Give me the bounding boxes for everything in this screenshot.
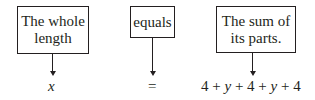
arrow-down-icon bbox=[252, 53, 253, 72]
box-sum-of-parts-line1: The sum of bbox=[222, 13, 290, 30]
arrow-down-icon bbox=[52, 54, 53, 72]
box-sum-of-parts: The sum of its parts. bbox=[216, 6, 296, 53]
box-whole-length-line1: The whole bbox=[21, 13, 85, 30]
expression-right-text: 4 + y + 4 + y + 4 bbox=[201, 78, 301, 94]
expression-middle: = bbox=[148, 78, 156, 94]
box-whole-length-line2: length bbox=[21, 30, 85, 47]
box-whole-length: The whole length bbox=[17, 6, 89, 54]
expression-left: x bbox=[48, 78, 55, 94]
box-equals-label: equals bbox=[133, 14, 171, 31]
box-equals: equals bbox=[130, 6, 175, 38]
arrow-down-icon bbox=[152, 38, 153, 72]
expression-right: 4 + y + 4 + y + 4 bbox=[201, 78, 301, 94]
box-sum-of-parts-line2: its parts. bbox=[222, 30, 290, 47]
